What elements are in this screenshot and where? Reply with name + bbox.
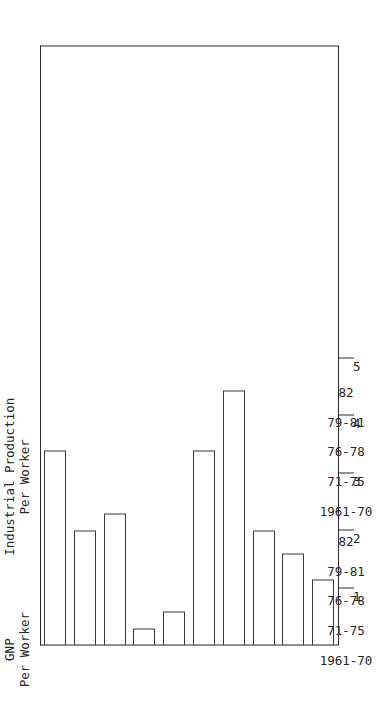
bar-industrial-production-71-75 xyxy=(223,390,245,645)
bar-industrial-production-76-78 xyxy=(253,530,275,645)
bar-gnp-79-81 xyxy=(133,628,155,645)
bar-gnp-71-75 xyxy=(74,530,96,645)
value-axis-line xyxy=(338,45,339,645)
category-label-gnp-79-81: 79-81 xyxy=(327,563,365,578)
bar-industrial-production-1961-70 xyxy=(193,450,215,645)
group-title-industrial-production: Industrial Production Per Worker xyxy=(2,397,32,555)
bar-gnp-1961-70 xyxy=(44,450,66,645)
category-label-industrial-production-79-81: 79-81 xyxy=(327,414,365,429)
value-tick-label-2: 2 xyxy=(353,530,361,545)
category-label-industrial-production-76-78: 76-78 xyxy=(327,444,365,459)
group-title-gnp: GNP Per Worker xyxy=(2,611,32,686)
category-label-industrial-production-1961-70: 1961-70 xyxy=(320,503,373,518)
category-label-gnp-76-78: 76-78 xyxy=(327,593,365,608)
bar-gnp-82 xyxy=(163,611,185,645)
category-label-gnp-82: 82 xyxy=(338,533,353,548)
category-label-industrial-production-71-75: 71-75 xyxy=(327,473,365,488)
value-tick-label-5: 5 xyxy=(353,358,361,373)
bar-industrial-production-79-81 xyxy=(282,553,304,645)
category-label-industrial-production-82: 82 xyxy=(338,384,353,399)
bar-gnp-76-78 xyxy=(104,513,126,645)
value-tick-5 xyxy=(338,357,354,358)
value-tick-1 xyxy=(338,587,354,588)
value-tick-2 xyxy=(338,529,354,530)
chart-figure: 12345 1961-7071-7576-7879-81821961-7071-… xyxy=(0,0,382,707)
chart-stage: 12345 1961-7071-7576-7879-81821961-7071-… xyxy=(0,0,382,707)
category-label-gnp-71-75: 71-75 xyxy=(327,622,365,637)
category-label-gnp-1961-70: 1961-70 xyxy=(320,652,373,667)
